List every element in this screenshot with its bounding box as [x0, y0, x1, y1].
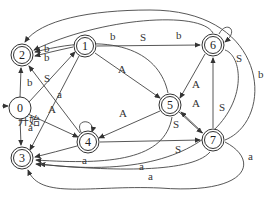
svg-text:3: 3	[19, 151, 25, 165]
svg-text:S: S	[236, 52, 242, 64]
svg-text:4: 4	[85, 135, 91, 149]
svg-text:0: 0	[17, 101, 23, 115]
svg-text:b: b	[44, 51, 50, 63]
svg-text:a: a	[57, 88, 62, 100]
svg-text:S: S	[44, 72, 50, 84]
edges: b S A a b b S A a a A S	[20, 10, 264, 189]
svg-text:A: A	[118, 63, 126, 75]
svg-text:S: S	[219, 101, 225, 113]
state-7: 7	[202, 129, 224, 151]
state-5: 5	[159, 94, 181, 116]
svg-text:a: a	[139, 160, 144, 172]
svg-text:b: b	[110, 30, 116, 42]
svg-text:7: 7	[210, 133, 216, 147]
state-6: 6	[202, 34, 224, 56]
svg-text:a: a	[28, 121, 33, 133]
svg-text:6: 6	[210, 38, 216, 52]
svg-text:a: a	[248, 150, 253, 162]
svg-text:2: 2	[19, 48, 25, 62]
svg-text:A: A	[192, 78, 200, 90]
svg-text:1: 1	[82, 39, 88, 53]
state-4: 4	[77, 131, 99, 153]
svg-text:b: b	[258, 68, 264, 80]
svg-text:b: b	[176, 29, 182, 41]
svg-text:S: S	[173, 118, 179, 130]
state-3: 3	[11, 147, 33, 169]
state-0: 0	[9, 97, 31, 119]
svg-text:5: 5	[167, 98, 173, 112]
state-1: 1	[74, 35, 96, 57]
svg-text:A: A	[192, 97, 200, 109]
svg-text:A: A	[119, 107, 127, 119]
svg-text:S: S	[140, 31, 146, 43]
svg-text:a: a	[148, 170, 153, 182]
svg-text:b: b	[27, 76, 33, 88]
state-diagram: 开始 b S A a b b S A a a A	[0, 0, 278, 206]
state-2: 2	[11, 44, 33, 66]
svg-text:a: a	[82, 154, 87, 166]
